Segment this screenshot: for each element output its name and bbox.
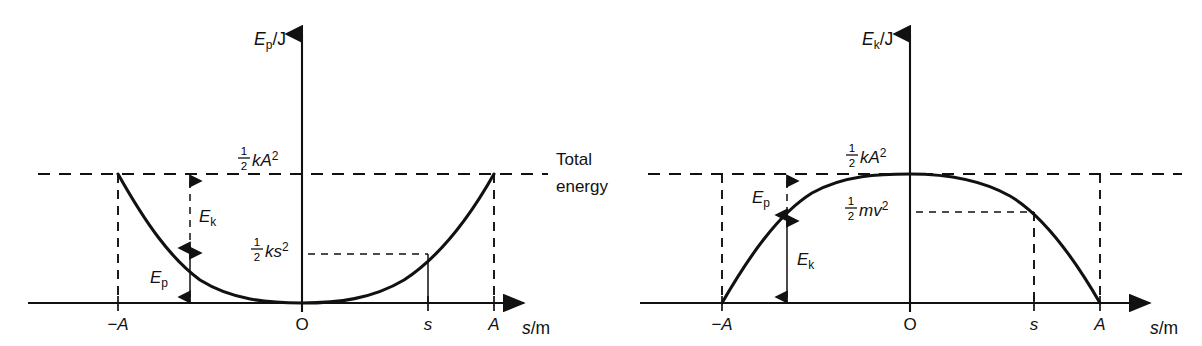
x-axis-label-right-main: s	[1150, 318, 1159, 338]
xtick-label-O-left: O	[295, 315, 308, 334]
Ek-label-sub-right: k	[808, 258, 815, 272]
svg-text:Ep: Ep	[752, 188, 770, 210]
Ep-label-main-right: E	[752, 188, 764, 207]
svg-text:Ek/J: Ek/J	[862, 29, 893, 52]
svg-text:Ep/J: Ep/J	[254, 29, 286, 52]
xtick-label-minus-A-right: −A	[711, 315, 732, 334]
ylabel-half-k-A-squared-left: 1 2 kA2	[238, 145, 279, 172]
ylabel-exponent: 2	[880, 146, 887, 160]
ylabel-exponent: 2	[882, 199, 889, 213]
Ek-measure-arrow-left: Ek	[190, 181, 217, 248]
frac-numerator: 1	[848, 195, 854, 207]
frac-denominator: 2	[254, 251, 260, 263]
ylabel-body-ks: ks	[265, 242, 283, 261]
figure-root: Total energy Ep/J	[0, 0, 1202, 346]
ylabel-half-k-A-squared-right: 1 2 kA2	[846, 142, 887, 169]
ylabel-body-kA: kA	[860, 148, 880, 167]
total-energy-label-line2: energy	[556, 177, 608, 196]
svg-text:kA2: kA2	[860, 146, 887, 167]
svg-text:Ek: Ek	[199, 207, 217, 229]
xtick-label-A-right: A	[1093, 315, 1105, 334]
Ep-measure-arrow-right: Ep	[752, 181, 787, 215]
ylabel-exponent: 2	[282, 240, 289, 254]
frac-denominator: 2	[241, 160, 247, 172]
y-axis-label-left-unit: /J	[272, 29, 286, 49]
Ep-label-sub-right: p	[763, 196, 770, 210]
x-axis-label-right: s/m	[1150, 318, 1178, 338]
y-axis-label-right-unit: /J	[880, 29, 894, 49]
svg-text:kA2: kA2	[252, 149, 279, 170]
potential-energy-chart: Ep/J −A O s A s/m	[28, 29, 550, 338]
svg-text:ks2: ks2	[265, 240, 289, 261]
y-axis-label-left: Ep/J	[254, 29, 286, 52]
Ek-label-main-right: E	[797, 250, 809, 269]
svg-text:Ek: Ek	[797, 250, 815, 272]
frac-numerator: 1	[849, 142, 855, 154]
svg-text:mv2: mv2	[859, 199, 889, 220]
frac-numerator: 1	[254, 236, 260, 248]
ylabel-body-mv: mv	[859, 201, 883, 220]
x-axis-label-left-unit: /m	[531, 318, 550, 338]
xtick-label-O-right: O	[903, 315, 916, 334]
frac-denominator: 2	[848, 210, 854, 222]
xtick-label-s-right: s	[1030, 315, 1039, 334]
y-axis-label-right: Ek/J	[862, 29, 893, 52]
ylabel-exponent: 2	[272, 149, 279, 163]
frac-denominator: 2	[849, 157, 855, 169]
total-energy-label: Total energy	[556, 150, 608, 196]
frac-numerator: 1	[241, 145, 247, 157]
total-energy-label-line1: Total	[556, 150, 592, 169]
Ek-label-main-left: E	[199, 207, 211, 226]
ylabel-half-m-v-squared-right: 1 2 mv2	[845, 195, 889, 222]
Ek-label-sub-left: k	[210, 215, 217, 229]
Ep-measure-arrow-left: Ep	[150, 253, 190, 297]
kinetic-energy-chart: Ek/J −A O s A s/m	[640, 29, 1178, 338]
ylabel-half-k-s-squared-left: 1 2 ks2	[251, 236, 289, 263]
xtick-label-minus-A-left: −A	[107, 315, 128, 334]
Ep-label-sub-left: p	[161, 276, 168, 290]
potential-energy-curve	[118, 174, 494, 303]
Ep-label-main-left: E	[150, 268, 162, 287]
x-axis-label-left: s/m	[522, 318, 550, 338]
shm-energy-diagram: Total energy Ep/J	[0, 0, 1202, 346]
x-axis-label-right-unit: /m	[1159, 318, 1178, 338]
ylabel-body-kA: kA	[252, 151, 272, 170]
xtick-label-s-left: s	[424, 315, 433, 334]
y-axis-label-right-main: E	[862, 29, 874, 49]
xtick-label-A-left: A	[487, 315, 499, 334]
Ek-measure-arrow-right: Ek	[787, 221, 815, 297]
x-axis-label-left-main: s	[522, 318, 531, 338]
svg-text:Ep: Ep	[150, 268, 168, 290]
y-axis-label-left-main: E	[254, 29, 266, 49]
